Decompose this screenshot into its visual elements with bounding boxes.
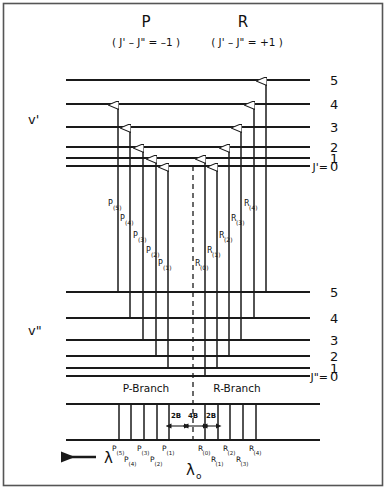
lower-j-label-5: 5	[330, 285, 338, 300]
upper-j-label-0: 0	[330, 159, 338, 174]
upper-j-eq-prefix: J'=	[312, 161, 329, 174]
spectrum-sublabel-R3: (3)	[241, 461, 249, 467]
transition-sublabel-R2: (2)	[224, 236, 233, 243]
wavelength-symbol: λ	[104, 449, 113, 467]
spectrum-sublabel-P3: (3)	[142, 450, 150, 456]
p-selection-rule: ( J' – J" = –1 )	[112, 36, 180, 48]
spectrum-sublabel-P4: (4)	[129, 461, 137, 467]
spectrum-sublabel-P2: (2)	[155, 461, 163, 467]
transition-sublabel-P3: (3)	[138, 236, 147, 243]
p-branch-title: P	[141, 13, 150, 31]
origin-subscript: o	[196, 471, 202, 481]
spacing-label-1: 4B	[188, 412, 198, 420]
upper-j-label-3: 3	[330, 120, 338, 135]
diagram-canvas: P R ( J' – J" = –1 ) ( J' – J" = +1 ) v'…	[0, 0, 386, 489]
spacing-label-0: 2B	[171, 412, 181, 420]
spectrum-sublabel-R4: (4)	[254, 450, 262, 456]
transition-sublabel-P2: (2)	[151, 251, 160, 258]
transition-sublabel-R4: (4)	[249, 204, 258, 211]
spectrum-sublabel-P1: (1)	[167, 450, 175, 456]
spectrum-sublabel-R2: (2)	[228, 450, 236, 456]
energy-level-diagram: P R ( J' – J" = –1 ) ( J' – J" = +1 ) v'…	[0, 0, 386, 489]
spectrum-r-branch-label: R-Branch	[213, 382, 260, 394]
lower-j-label-4: 4	[330, 311, 338, 326]
lower-j-label-0: 0	[330, 369, 338, 384]
transition-sublabel-R3: (3)	[236, 219, 245, 226]
origin-symbol: λ	[186, 461, 195, 479]
upper-j-label-4: 4	[330, 97, 338, 112]
transition-sublabel-R1: (1)	[212, 251, 221, 258]
spectrum-sublabel-R0: (0)	[203, 450, 211, 456]
r-branch-title: R	[238, 13, 248, 31]
transition-sublabel-P5: (5)	[113, 204, 122, 211]
upper-vibrational-label: v'	[28, 112, 39, 127]
spacing-label-2: 2B	[206, 412, 216, 420]
lower-j-eq-prefix: J"=	[309, 371, 328, 384]
spectrum-sublabel-R1: (1)	[216, 461, 224, 467]
upper-j-label-5: 5	[330, 73, 338, 88]
lower-j-label-3: 3	[330, 333, 338, 348]
transition-sublabel-R0: (0)	[200, 264, 209, 271]
r-selection-rule: ( J' – J" = +1 )	[211, 36, 283, 48]
transition-sublabel-P4: (4)	[125, 219, 134, 226]
lower-vibrational-label: v"	[28, 323, 42, 338]
transition-sublabel-P1: (1)	[163, 264, 172, 271]
spectrum-p-branch-label: P-Branch	[123, 382, 170, 394]
